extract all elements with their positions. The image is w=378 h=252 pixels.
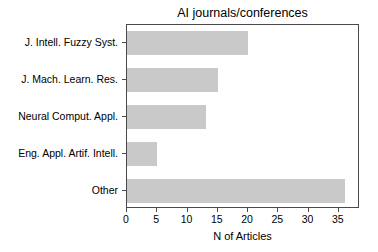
x-axis-tick-mark <box>126 208 127 212</box>
y-axis-tick-labels: J. Intell. Fuzzy Syst.J. Mach. Learn. Re… <box>0 24 122 208</box>
x-axis-tick-mark <box>247 208 248 212</box>
bar <box>127 105 206 129</box>
chart-title: AI journals/conferences <box>126 6 359 21</box>
bar <box>127 31 248 55</box>
x-axis-tick-label: 5 <box>153 213 159 225</box>
x-axis-tick-label: 35 <box>332 213 344 225</box>
x-axis-tick-mark <box>308 208 309 212</box>
x-axis-tick-mark <box>217 208 218 212</box>
y-axis-tick-label: Eng. Appl. Artif. Intell. <box>0 147 118 159</box>
x-axis-tick-mark <box>156 208 157 212</box>
plot-area <box>126 24 359 208</box>
x-axis-tick-mark <box>187 208 188 212</box>
x-axis-tick-label: 25 <box>271 213 283 225</box>
x-axis-tick-label: 15 <box>211 213 223 225</box>
y-axis-tick-label: Neural Comput. Appl. <box>0 110 118 122</box>
x-axis-tick-label: 10 <box>181 213 193 225</box>
bar <box>127 179 345 203</box>
x-axis-tick-label: 0 <box>123 213 129 225</box>
bars-layer <box>127 25 358 207</box>
bar-chart-figure: AI journals/conferences J. Intell. Fuzzy… <box>0 0 378 252</box>
x-axis-tick-label: 30 <box>302 213 314 225</box>
y-axis-tick-label: Other <box>0 184 118 196</box>
y-axis-tick-label: J. Mach. Learn. Res. <box>0 73 118 85</box>
bar <box>127 142 157 166</box>
bar <box>127 68 218 92</box>
x-axis-tick-mark <box>277 208 278 212</box>
x-axis-label: N of Articles <box>126 230 359 243</box>
x-axis-tick-label: 20 <box>241 213 253 225</box>
y-axis-tick-label: J. Intell. Fuzzy Syst. <box>0 36 118 48</box>
x-axis-tick-mark <box>338 208 339 212</box>
